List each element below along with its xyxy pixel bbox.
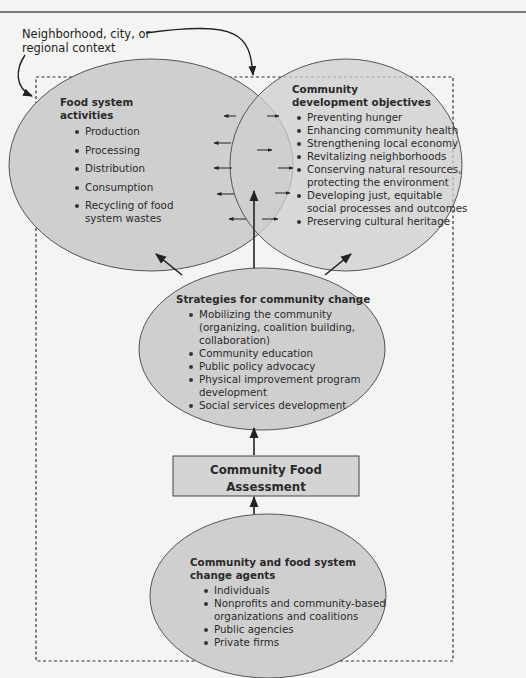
community-development-item: Revitalizing neighborhoods [294, 150, 522, 163]
community-development-item: Preserving cultural heritage [294, 215, 522, 228]
item-line1: Mobilizing the community [199, 308, 332, 320]
agents-title-line2: change agents [190, 569, 420, 582]
item-line2: organizations and coalitions [214, 610, 358, 622]
community-development-title-line2: development objectives [292, 96, 522, 109]
agents-item: Public agencies [201, 623, 420, 636]
food-system-item-line1: Recycling of food [85, 199, 173, 211]
food-system-item: Production [72, 125, 180, 138]
food-system-list: Production Processing Distribution Consu… [72, 125, 180, 225]
community-development-item: Enhancing community health [294, 124, 522, 137]
item-line1: Conserving natural resources, [307, 163, 462, 175]
strategies-item: Public policy advocacy [186, 360, 406, 373]
item-line1: Developing just, equitable [307, 189, 442, 201]
strategies-title: Strategies for community change [176, 293, 406, 306]
strategies-item: Social services development [186, 399, 406, 412]
food-system-item: Processing [72, 144, 180, 157]
community-development-block: Community development objectives Prevent… [292, 83, 522, 228]
community-development-list: Preventing hunger Enhancing community he… [294, 111, 522, 228]
item-line1: Nonprofits and community-based [214, 597, 386, 609]
community-development-item: Developing just, equitablesocial process… [294, 189, 522, 215]
community-development-item: Conserving natural resources,protecting … [294, 163, 522, 189]
context-label-line1: Neighborhood, city, or [22, 27, 150, 41]
item-line3: collaboration) [199, 334, 270, 346]
strategies-item: Physical improvement programdevelopment [186, 373, 406, 399]
assessment-line2: Assessment [170, 479, 362, 496]
food-system-title: Food system activities [60, 96, 180, 122]
context-label-line2: regional context [22, 41, 150, 55]
food-system-block: Food system activities Production Proces… [60, 96, 180, 225]
context-arrow-left [18, 55, 32, 96]
strategies-block: Strategies for community change Mobilizi… [176, 293, 406, 412]
community-development-item: Strengthening local economy [294, 137, 522, 150]
assessment-label: Community Food Assessment [170, 462, 362, 496]
agents-item: Nonprofits and community-basedorganizati… [201, 597, 420, 623]
assessment-line1: Community Food [170, 462, 362, 479]
item-line2: social processes and outcomes [307, 202, 467, 214]
item-line1: Physical improvement program [199, 373, 360, 385]
food-system-item: Recycling of foodsystem wastes [72, 199, 180, 225]
food-system-item: Consumption [72, 181, 180, 194]
context-label: Neighborhood, city, or regional context [22, 27, 150, 55]
agents-title-line1: Community and food system [190, 556, 420, 569]
food-system-item: Distribution [72, 162, 180, 175]
food-system-item-line2: system wastes [85, 212, 161, 224]
diagram-page: Neighborhood, city, or regional context … [0, 0, 526, 678]
agents-block: Community and food system change agents … [190, 556, 420, 649]
item-line2: (organizing, coalition building, [199, 321, 355, 333]
community-development-item: Preventing hunger [294, 111, 522, 124]
item-line2: development [199, 386, 267, 398]
strategies-list: Mobilizing the community(organizing, coa… [186, 308, 406, 412]
strategies-item: Community education [186, 347, 406, 360]
agents-item: Individuals [201, 584, 420, 597]
agents-list: Individuals Nonprofits and community-bas… [201, 584, 420, 649]
agents-item: Private firms [201, 636, 420, 649]
item-line2: protecting the environment [307, 176, 449, 188]
community-development-title-line1: Community [292, 83, 522, 96]
strategies-item: Mobilizing the community(organizing, coa… [186, 308, 406, 347]
